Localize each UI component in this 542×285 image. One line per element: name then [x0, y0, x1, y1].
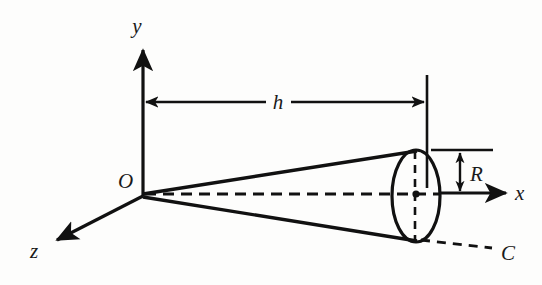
- cone-label: C: [501, 241, 516, 265]
- z-axis-label: z: [29, 239, 38, 263]
- y-axis-label: y: [130, 14, 142, 38]
- cone-lower-slant-edge: [143, 197, 417, 241]
- cone-label-leader-group: C: [421, 240, 516, 265]
- z-axis-line: [57, 196, 143, 240]
- cone-body: [143, 150, 440, 242]
- cone-label-leader-line: [421, 240, 492, 248]
- cone-diagram: h R C y x z O: [0, 0, 542, 285]
- x-axis-label: x: [514, 181, 525, 205]
- radius-dimension-label: R: [469, 162, 483, 186]
- figure-canvas: h R C y x z O: [0, 0, 542, 285]
- cone-base-center-point: [412, 190, 419, 197]
- cone-upper-slant-edge: [143, 151, 417, 194]
- height-dimension-label: h: [273, 90, 284, 114]
- origin-label: O: [118, 169, 133, 193]
